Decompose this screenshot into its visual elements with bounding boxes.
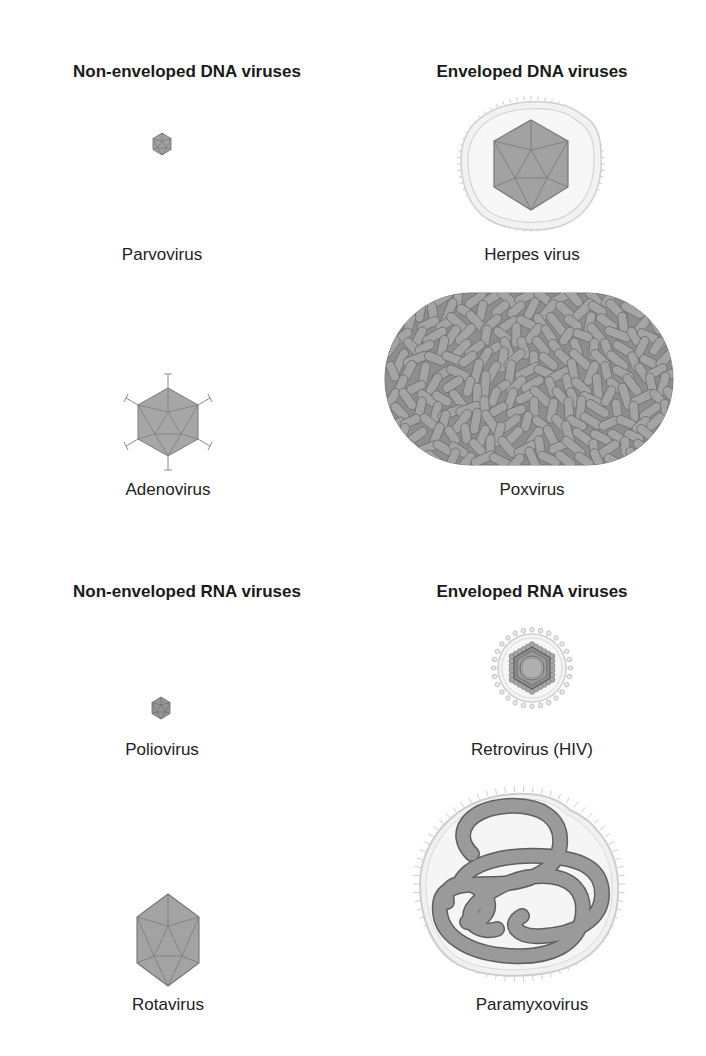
paramyxovirus-illustration (412, 784, 632, 984)
label-poxvirus: Poxvirus (402, 480, 662, 500)
heading-nonenveloped-dna: Non-enveloped DNA viruses (17, 62, 357, 82)
parvovirus-illustration (151, 131, 173, 157)
heading-enveloped-dna: Enveloped DNA viruses (362, 62, 702, 82)
heading-nonenveloped-rna: Non-enveloped RNA viruses (17, 582, 357, 602)
label-poliovirus: Poliovirus (32, 740, 292, 760)
label-paramyxovirus: Paramyxovirus (402, 995, 662, 1015)
label-retrovirus-hiv: Retrovirus (HIV) (402, 740, 662, 760)
label-parvovirus: Parvovirus (32, 245, 292, 265)
herpes-virus-illustration (455, 93, 607, 235)
rotavirus-illustration (133, 892, 203, 988)
poxvirus-illustration (383, 290, 675, 468)
heading-enveloped-rna: Enveloped RNA viruses (362, 582, 702, 602)
label-adenovirus: Adenovirus (38, 480, 298, 500)
label-herpes-virus: Herpes virus (402, 245, 662, 265)
retrovirus-hiv-illustration (490, 626, 574, 710)
label-rotavirus: Rotavirus (38, 995, 298, 1015)
poliovirus-illustration (150, 695, 172, 721)
adenovirus-illustration (118, 372, 218, 472)
